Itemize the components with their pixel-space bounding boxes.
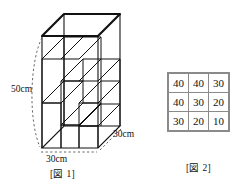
value-grid-table: 40 40 30 40 30 20 30 20 10 [168, 73, 229, 131]
table-cell: 40 [169, 93, 189, 112]
table-cell: 20 [209, 93, 229, 112]
figure-2-table-wrapper: 40 40 30 40 30 20 30 20 10 [168, 73, 229, 131]
table-row: 40 40 30 [169, 74, 229, 93]
height-dimension-label: 50cm [11, 85, 32, 95]
figure-1-diagram: 50cm 30cm 30cm [図 1] [0, 0, 150, 189]
width-dimension-label: 30cm [46, 155, 67, 165]
table-cell: 20 [189, 112, 209, 131]
table-body: 40 40 30 40 30 20 30 20 10 [169, 74, 229, 131]
figure-2-caption: [図 2] [186, 164, 211, 174]
box-with-stepped-blocks-svg [0, 0, 150, 165]
table-cell: 30 [189, 93, 209, 112]
table-cell: 30 [209, 74, 229, 93]
table-cell: 10 [209, 112, 229, 131]
depth-dimension-label: 30cm [113, 130, 134, 140]
figure-1-caption: [図 1] [50, 170, 75, 180]
table-cell: 30 [169, 112, 189, 131]
table-cell: 40 [189, 74, 209, 93]
figure-canvas: 50cm 30cm 30cm [図 1] 40 40 30 40 30 20 3… [0, 0, 248, 189]
table-row: 30 20 10 [169, 112, 229, 131]
box-top-rim [42, 14, 120, 36]
table-row: 40 30 20 [169, 93, 229, 112]
table-cell: 40 [169, 74, 189, 93]
